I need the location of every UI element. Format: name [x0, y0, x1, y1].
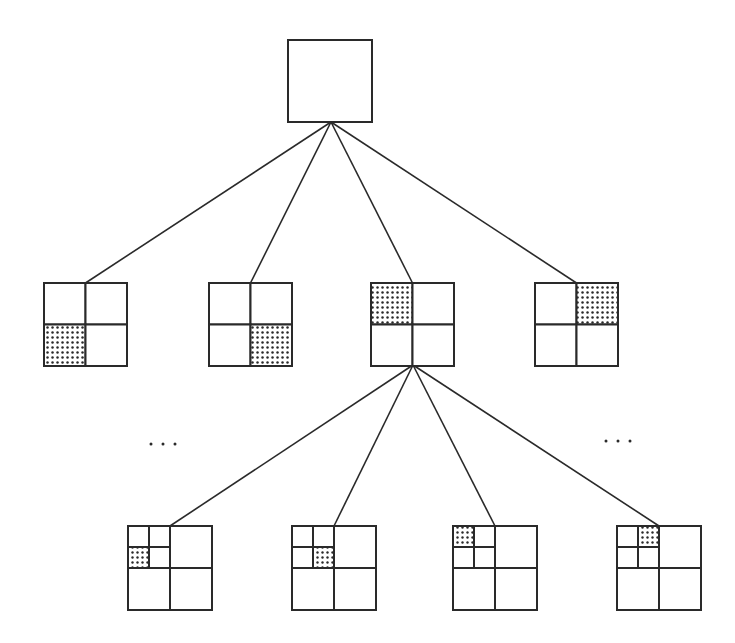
subquadrant-top-left [292, 526, 313, 547]
quadrant-top-right [495, 526, 537, 568]
quadrant-bottom-right [495, 568, 537, 610]
quadrant-bottom-left [535, 325, 577, 367]
subquadrant-bottom-left [292, 547, 313, 568]
node-L2-0 [128, 526, 212, 610]
quadrant-top-right [659, 526, 701, 568]
ellipsis-markers [150, 440, 632, 446]
subquadrant-bottom-left [453, 547, 474, 568]
quadrant-top-right [251, 283, 293, 325]
quadtree-diagram [0, 0, 735, 643]
quadrant-bottom-left [371, 325, 413, 367]
quadrant-bottom-right [334, 568, 376, 610]
subquadrant-top-right [474, 526, 495, 547]
node-L1-1 [209, 283, 292, 366]
edge-L1-2-to-L2-0 [170, 365, 413, 526]
level1-nodes [44, 283, 618, 366]
quadrant-bottom-left [617, 568, 659, 610]
subquadrant-bottom-left [617, 547, 638, 568]
level1-to-level2-edges [170, 365, 659, 526]
quadrant-top-left [535, 283, 577, 325]
ellipsis-0 [150, 443, 177, 446]
edge-root-to-L1-1 [251, 122, 332, 283]
quadrant-top-right [334, 526, 376, 568]
node-L2-2 [453, 526, 537, 610]
edge-root-to-L1-2 [331, 122, 413, 283]
root-to-level1-edges [86, 122, 577, 283]
quadrant-bottom-left [128, 568, 170, 610]
subquadrant-top-left-shaded [453, 526, 474, 547]
quadrant-bottom-left [453, 568, 495, 610]
quadrant-bottom-right [170, 568, 212, 610]
root-square [288, 40, 372, 122]
quadrant-top-left [44, 283, 86, 325]
subquadrant-top-right [313, 526, 334, 547]
quadrant-bottom-left-shaded [44, 325, 86, 367]
edge-L1-2-to-L2-2 [413, 365, 495, 526]
quadrant-bottom-left [209, 325, 251, 367]
subquadrant-bottom-right [474, 547, 495, 568]
subquadrant-top-left [128, 526, 149, 547]
quadrant-bottom-right [413, 325, 455, 367]
node-L2-3 [617, 526, 701, 610]
node-L1-3 [535, 283, 618, 366]
quadrant-bottom-right [86, 325, 128, 367]
quadrant-top-right-shaded [577, 283, 619, 325]
quadrant-top-left-shaded [371, 283, 413, 325]
quadrant-top-right [86, 283, 128, 325]
edge-L1-2-to-L2-1 [334, 365, 413, 526]
subquadrant-top-right [149, 526, 170, 547]
edge-root-to-L1-3 [331, 122, 577, 283]
subquadrant-top-right-shaded [638, 526, 659, 547]
subquadrant-bottom-left-shaded [128, 547, 149, 568]
subquadrant-bottom-right [638, 547, 659, 568]
subquadrant-bottom-right-shaded [313, 547, 334, 568]
subquadrant-bottom-right [149, 547, 170, 568]
node-L1-2 [371, 283, 454, 366]
node-L1-0 [44, 283, 127, 366]
quadrant-bottom-right-shaded [251, 325, 293, 367]
edge-root-to-L1-0 [86, 122, 332, 283]
quadrant-top-right [413, 283, 455, 325]
level2-nodes [128, 526, 701, 610]
edge-L1-2-to-L2-3 [413, 365, 659, 526]
quadrant-top-right [170, 526, 212, 568]
subquadrant-top-left [617, 526, 638, 547]
quadrant-bottom-left [292, 568, 334, 610]
quadrant-bottom-right [577, 325, 619, 367]
root-node [288, 40, 372, 122]
node-L2-1 [292, 526, 376, 610]
ellipsis-1 [605, 440, 632, 443]
quadrant-bottom-right [659, 568, 701, 610]
quadrant-top-left [209, 283, 251, 325]
